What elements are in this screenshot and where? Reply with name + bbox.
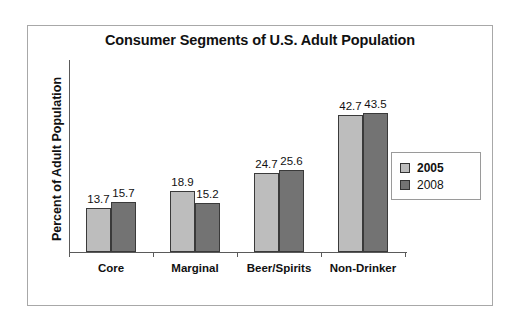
bar-value-beer-spirits-2008: 25.6 — [280, 155, 302, 167]
bar-value-non-drinker-2005: 42.7 — [339, 100, 361, 112]
plot-area: 13.7 15.7 18.9 15.2 — [69, 60, 407, 253]
bar-value-non-drinker-2008: 43.5 — [364, 98, 386, 110]
x-axis-label-core: Core — [98, 262, 124, 274]
bar-core-2008[interactable]: 15.7 — [111, 202, 136, 252]
x-axis-tick — [153, 253, 154, 257]
legend-swatch-2008-icon — [400, 180, 410, 190]
bar-group-beer-spirits: 24.7 25.6 — [237, 59, 321, 252]
x-axis-tick — [321, 253, 322, 257]
x-axis-label-beer-spirits: Beer/Spirits — [247, 262, 312, 274]
bar-marginal-2005[interactable]: 18.9 — [170, 191, 195, 252]
bar-value-marginal-2005: 18.9 — [171, 176, 193, 188]
bar-value-marginal-2008: 15.2 — [196, 188, 218, 200]
bar-value-beer-spirits-2005: 24.7 — [255, 158, 277, 170]
bar-non-drinker-2005[interactable]: 42.7 — [338, 115, 363, 252]
y-axis-title: Percent of Adult Population — [50, 69, 64, 249]
bar-value-core-2008: 15.7 — [112, 187, 134, 199]
bar-beer-spirits-2008[interactable]: 25.6 — [279, 170, 304, 252]
x-axis-tick — [237, 253, 238, 257]
legend-item-2008[interactable]: 2008 — [400, 176, 480, 193]
legend-item-2005[interactable]: 2005 — [400, 159, 480, 176]
legend-label-2005: 2005 — [417, 161, 444, 175]
x-axis-label-marginal: Marginal — [171, 262, 218, 274]
x-axis-tick — [405, 253, 406, 257]
bar-beer-spirits-2005[interactable]: 24.7 — [254, 173, 279, 252]
legend-swatch-2005-icon — [400, 163, 410, 173]
chart-frame: Consumer Segments of U.S. Adult Populati… — [27, 25, 493, 306]
chart-legend: 2005 2008 — [391, 152, 481, 200]
x-axis-tick — [69, 253, 70, 257]
bar-value-core-2005: 13.7 — [87, 193, 109, 205]
chart-figure: Consumer Segments of U.S. Adult Populati… — [0, 0, 520, 330]
chart-title: Consumer Segments of U.S. Adult Populati… — [28, 32, 492, 48]
bar-non-drinker-2008[interactable]: 43.5 — [363, 113, 388, 252]
bar-marginal-2008[interactable]: 15.2 — [195, 203, 220, 252]
x-axis-label-non-drinker: Non-Drinker — [330, 262, 396, 274]
bar-group-marginal: 18.9 15.2 — [153, 59, 237, 252]
bar-core-2005[interactable]: 13.7 — [86, 208, 111, 252]
x-axis-line — [69, 252, 407, 253]
legend-label-2008: 2008 — [417, 178, 444, 192]
bar-group-core: 13.7 15.7 — [69, 59, 153, 252]
